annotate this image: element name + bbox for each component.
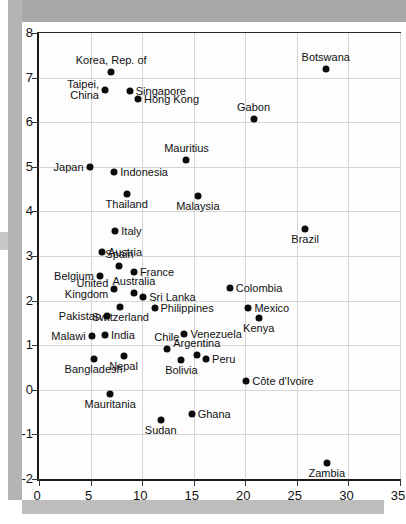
x-axis-tick-label: 0 [33, 488, 40, 503]
x-axis-tick-label: 15 [184, 488, 198, 503]
chart-page: Korea, Rep. ofBotswanaTaipei, ChinaSinga… [0, 0, 406, 524]
x-axis-tick-label: 5 [85, 488, 92, 503]
x-axis-tick-label: 35 [391, 488, 405, 503]
x-axis-tick-label: 25 [288, 488, 302, 503]
x-axis-tick-label: 30 [339, 488, 353, 503]
x-axis-tick-labels: 05101520253035 [0, 0, 406, 524]
x-axis-tick-label: 10 [133, 488, 147, 503]
x-axis-tick-label: 20 [236, 488, 250, 503]
